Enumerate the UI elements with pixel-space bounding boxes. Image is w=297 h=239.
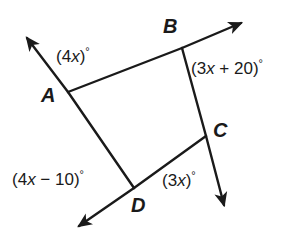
vertex-label-D: D	[131, 195, 145, 215]
angle-d-constant: 10	[55, 170, 74, 189]
angle-label-at-B: (3x + 20)°	[191, 58, 263, 77]
angle-label-at-A: (4x)°	[56, 46, 90, 65]
angle-a-variable: x	[71, 47, 80, 66]
angle-b-constant: 20	[234, 59, 253, 78]
degree-symbol-icon: °	[80, 168, 84, 180]
vertex-label-B: B	[163, 16, 177, 36]
angle-c-variable: x	[177, 171, 186, 190]
angle-b-variable: x	[206, 59, 215, 78]
angle-d-operator: −	[36, 170, 55, 189]
degree-symbol-icon: °	[85, 45, 89, 57]
angle-b-coefficient: 3	[197, 59, 206, 78]
vertex-label-C: C	[213, 120, 227, 140]
ray-past-D-arrow-icon	[79, 188, 134, 226]
geometry-diagram: A B C D (4x)° (3x + 20)° (4x − 10)° (3x)…	[0, 0, 297, 239]
degree-symbol-icon: °	[259, 57, 263, 69]
angle-a-coefficient: 4	[62, 47, 71, 66]
angle-d-coefficient: 4	[18, 170, 27, 189]
angle-label-at-D: (4x − 10)°	[12, 169, 84, 188]
ray-past-C-arrow-icon	[206, 136, 224, 205]
vertex-label-A: A	[41, 85, 55, 105]
diagram-canvas	[0, 0, 297, 239]
angle-b-operator: +	[215, 59, 234, 78]
angle-c-coefficient: 3	[168, 171, 177, 190]
angle-label-at-C: (3x)°	[162, 170, 196, 189]
angle-d-variable: x	[27, 170, 36, 189]
degree-symbol-icon: °	[191, 169, 195, 181]
ray-past-B-arrow-icon	[182, 23, 241, 48]
